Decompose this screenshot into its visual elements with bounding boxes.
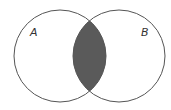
label-b: B — [141, 26, 149, 39]
venn-diagram: A B — [0, 0, 171, 110]
label-a: A — [29, 26, 38, 39]
